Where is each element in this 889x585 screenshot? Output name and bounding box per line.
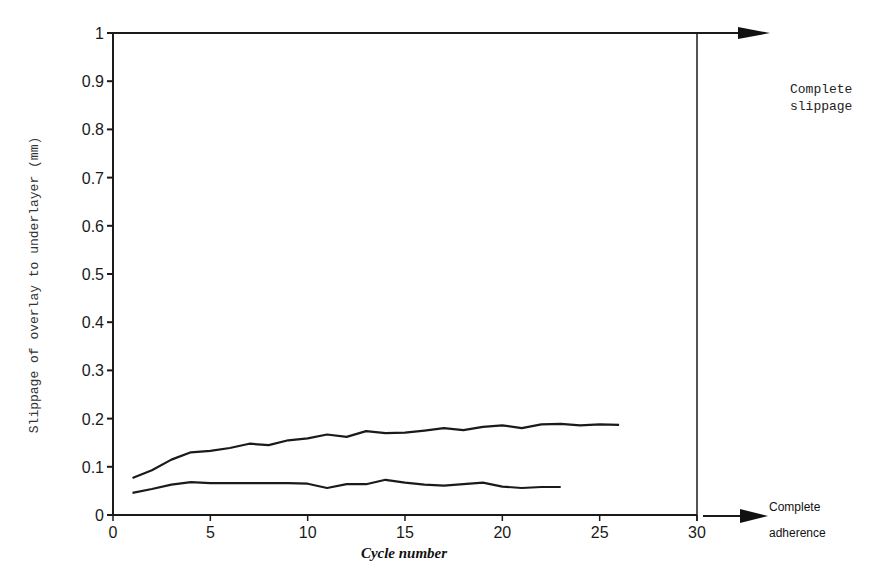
- complete-slippage-annotation: Complete slippage: [697, 27, 852, 114]
- lower-curve-line: [133, 480, 561, 493]
- arrow-right-icon: [738, 27, 770, 39]
- complete-adherence-annotation: Complete adherence: [703, 500, 826, 540]
- y-axis-label: Slippage of overlay to underlayer (mm): [27, 137, 42, 433]
- complete-adherence-label-line1: Complete: [769, 500, 821, 514]
- x-axis-label: Cycle number: [361, 545, 447, 561]
- data-series: [133, 424, 620, 493]
- x-tick-label: 5: [206, 524, 215, 541]
- y-tick-label: 0.5: [82, 266, 104, 283]
- y-tick-label: 0: [95, 507, 104, 524]
- y-tick-label: 0.6: [82, 218, 104, 235]
- x-tick-label: 0: [109, 524, 118, 541]
- x-tick-label: 10: [299, 524, 317, 541]
- y-tick-label: 0.1: [82, 459, 104, 476]
- complete-adherence-label-line2: adherence: [769, 526, 826, 540]
- arrow-right-icon: [740, 509, 768, 523]
- y-tick-label: 0.7: [82, 170, 104, 187]
- x-tick-label: 30: [688, 524, 706, 541]
- complete-slippage-label-line1: Complete: [790, 82, 852, 97]
- upper-curve-line: [133, 424, 620, 478]
- axes: 00.10.20.30.40.50.60.70.80.9105101520253…: [82, 25, 706, 541]
- y-tick-label: 0.3: [82, 362, 104, 379]
- x-tick-label: 20: [493, 524, 511, 541]
- y-tick-label: 0.2: [82, 411, 104, 428]
- y-tick-label: 0.8: [82, 121, 104, 138]
- x-tick-label: 15: [396, 524, 414, 541]
- chart: 00.10.20.30.40.50.60.70.80.9105101520253…: [0, 0, 889, 585]
- complete-slippage-label-line2: slippage: [790, 99, 852, 114]
- x-tick-label: 25: [591, 524, 609, 541]
- y-tick-label: 0.4: [82, 314, 104, 331]
- y-tick-label: 0.9: [82, 73, 104, 90]
- y-tick-label: 1: [95, 25, 104, 42]
